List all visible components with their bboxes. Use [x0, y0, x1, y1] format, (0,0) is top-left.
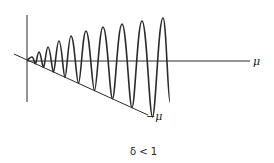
mu-axis-label: μ: [253, 56, 260, 67]
oscillation-diagram: [0, 0, 274, 163]
minus-mu-label: −μ: [146, 111, 162, 122]
oscillation-curve: [27, 18, 170, 117]
caption: δ < 1: [130, 147, 157, 157]
